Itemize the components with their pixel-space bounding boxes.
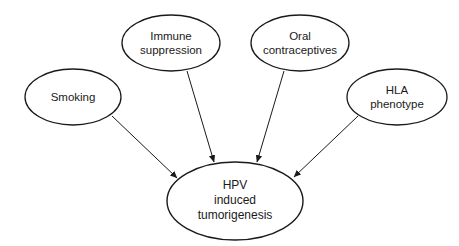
label-hpv-tumorigenesis: HPV induced tumorigenesis — [198, 178, 273, 223]
label-line: induced — [198, 193, 273, 208]
label-line: suppression — [140, 43, 202, 57]
arrow-oral-to-hpv — [257, 71, 284, 162]
label-hla-phenotype: HLA phenotype — [370, 83, 424, 111]
label-line: phenotype — [370, 97, 424, 111]
label-line: Immune — [140, 29, 202, 43]
arrow-hla-to-hpv — [294, 116, 358, 177]
arrow-immune-to-hpv — [187, 71, 214, 162]
label-line: tumorigenesis — [198, 208, 273, 223]
arrow-smoking-to-hpv — [112, 116, 177, 178]
label-line: contraceptives — [263, 43, 337, 57]
label-line: HPV — [198, 178, 273, 193]
label-line: Smoking — [51, 90, 96, 104]
label-line: Oral — [263, 29, 337, 43]
label-smoking: Smoking — [51, 90, 96, 104]
label-line: HLA — [370, 83, 424, 97]
label-oral-contraceptives: Oral contraceptives — [263, 29, 337, 57]
label-immune-suppression: Immune suppression — [140, 29, 202, 57]
